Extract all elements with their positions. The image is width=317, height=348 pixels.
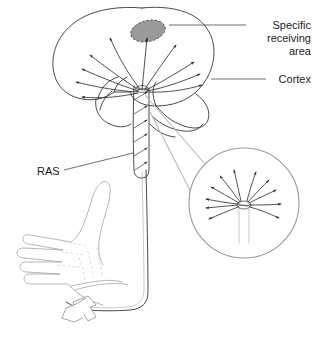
diagram-canvas: Specific receiving area Cortex RAS [0,0,317,348]
reticular-hatch-marks [134,92,147,170]
label-ras: RAS [37,165,60,177]
leader-ras [64,153,133,170]
label-specific-receiving-area-line-3: area [289,45,312,57]
hand [17,182,128,305]
label-specific-receiving-area-line-1: Specific [272,19,311,31]
label-specific-receiving-area: Specific receiving area [267,19,312,57]
cerebellum [150,94,209,137]
brainstem-reticular-formation [133,86,149,178]
magnifier-inset [189,148,299,258]
label-cortex-text: Cortex [279,73,312,85]
ras-pathway-diagram: Specific receiving area Cortex RAS [0,0,317,348]
label-cortex: Cortex [279,73,312,85]
hand-creases [58,242,102,279]
specific-receiving-area [129,17,168,45]
label-specific-receiving-area-line-2: receiving [267,32,311,44]
temporal-lobe [96,91,131,127]
ascending-nerve-fiber [66,170,148,311]
label-ras-text: RAS [37,165,60,177]
stimulus-arrow [62,296,96,322]
